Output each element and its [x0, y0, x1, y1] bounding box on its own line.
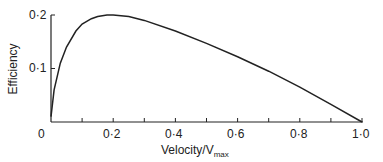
axis-ticks: [51, 15, 362, 122]
efficiency-curve: [51, 15, 362, 122]
x-axis-label: Velocity/Vmax: [161, 143, 229, 159]
x-tick-1.0: 1·0: [352, 127, 369, 141]
x-tick-0.4: 0·4: [165, 127, 182, 141]
y-tick-0.1: 0·1: [29, 61, 46, 75]
y-tick-0.2: 0·2: [29, 8, 46, 22]
x-tick-0.2: 0·2: [103, 127, 120, 141]
y-axis-label: Efficiency: [6, 43, 20, 94]
x-tick-0: 0: [38, 127, 45, 141]
x-tick-0.8: 0·8: [290, 127, 307, 141]
chart-plot: [0, 0, 383, 162]
x-tick-0.6: 0·6: [227, 127, 244, 141]
